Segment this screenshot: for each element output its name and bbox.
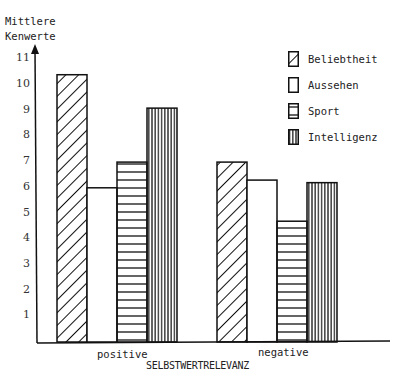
y-tick-label: 7 xyxy=(4,154,30,167)
legend-item-aussehen: Aussehen xyxy=(288,72,378,98)
y-tick-label: 10 xyxy=(4,77,30,90)
bar-aussehen-negative xyxy=(247,180,277,342)
bar-aussehen-positive xyxy=(87,188,117,342)
bar-sport-negative xyxy=(277,221,307,342)
y-tick-label: 9 xyxy=(4,103,30,116)
vertical-lines-swatch-icon xyxy=(288,129,299,145)
legend-item-intelligenz: Intelligenz xyxy=(288,124,378,150)
blank-swatch-icon xyxy=(288,77,299,93)
horizontal-lines-swatch-icon xyxy=(288,103,299,119)
x-axis-title: SELBSTWERTRELEVANZ xyxy=(146,360,249,371)
diagonal-hatch-swatch-icon xyxy=(288,51,299,67)
y-axis-arrow-icon xyxy=(31,44,39,54)
x-category-label-positive: positive xyxy=(97,348,148,360)
legend-item-sport: Sport xyxy=(288,98,378,124)
bar-beliebtheit-positive xyxy=(57,75,87,342)
y-tick-label: 5 xyxy=(4,206,30,219)
y-tick-label: 8 xyxy=(4,128,30,141)
legend-label: Sport xyxy=(308,105,340,117)
x-category-label-negative: negative xyxy=(258,346,309,358)
legend: Beliebtheit Aussehen Sport Intelligenz xyxy=(288,46,378,150)
bar-sport-positive xyxy=(117,162,147,342)
legend-label: Aussehen xyxy=(308,79,359,91)
y-tick-label: 3 xyxy=(4,257,30,270)
y-tick-label: 2 xyxy=(4,283,30,296)
legend-label: Beliebtheit xyxy=(308,53,378,65)
bar-intelligenz-negative xyxy=(307,183,337,342)
legend-item-beliebtheit: Beliebtheit xyxy=(288,46,378,72)
y-axis xyxy=(35,50,37,343)
y-tick-label: 1 xyxy=(4,308,30,321)
y-tick-label: 11 xyxy=(4,51,30,64)
legend-label: Intelligenz xyxy=(308,131,378,143)
y-tick-label: 4 xyxy=(4,231,30,244)
bar-beliebtheit-negative xyxy=(217,162,247,342)
y-tick-label: 6 xyxy=(4,180,30,193)
bar-intelligenz-positive xyxy=(147,108,177,342)
